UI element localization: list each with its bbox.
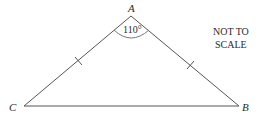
vertex-label-c: C xyxy=(9,101,17,113)
angle-label-a: 110° xyxy=(123,24,142,35)
vertex-label-b: B xyxy=(242,101,249,113)
not-to-scale-line2: SCALE xyxy=(215,39,247,50)
not-to-scale-line1: NOT TO xyxy=(213,26,249,37)
vertex-label-a: A xyxy=(127,2,135,14)
triangle-diagram: A C B 110° NOT TO SCALE xyxy=(0,0,261,118)
side-ac xyxy=(24,16,131,106)
